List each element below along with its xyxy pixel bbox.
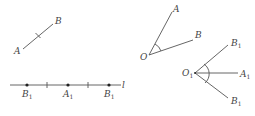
point-a1 (66, 83, 69, 86)
label-l: l (122, 80, 125, 90)
segment-ab: A B (13, 16, 62, 56)
label-b1-bottom: B1 (230, 96, 241, 107)
label-o1: O1 (182, 68, 193, 79)
label-a1-mid: A1 (239, 69, 250, 80)
label-angle-a: A (172, 4, 180, 14)
ray-o1-b1-bottom (195, 73, 228, 98)
ray-o1-b1-top (195, 45, 228, 73)
point-o1 (194, 72, 196, 74)
angle-o1: O1 B1 A1 B1 (182, 38, 250, 107)
label-a: A (13, 46, 21, 56)
line-l: B1 A1 B1 l (10, 80, 125, 100)
label-b1-right: B1 (103, 89, 114, 100)
segment-ab-line (23, 24, 53, 49)
label-angle-b: B (194, 30, 202, 40)
label-b1-top: B1 (230, 38, 241, 49)
angle-aob: O A B (140, 4, 202, 62)
angle-arc (155, 44, 161, 51)
point-b1-right (107, 83, 110, 86)
label-o: O (140, 52, 148, 62)
label-a1: A1 (62, 89, 73, 100)
point-b1-left (25, 83, 28, 86)
label-b1-left: B1 (21, 89, 32, 100)
geometry-diagram: A B B1 A1 B1 l O A B O1 B1 A1 B1 (0, 0, 255, 116)
label-b: B (54, 16, 62, 26)
